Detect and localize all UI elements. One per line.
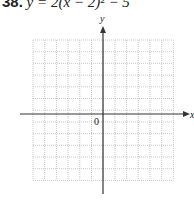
x-axis-arrow-icon	[183, 111, 190, 117]
x-axis-label: x	[189, 109, 194, 120]
origin-label: 0	[94, 116, 99, 127]
y-axis-arrow-icon	[100, 26, 106, 33]
y-axis-label: y	[99, 13, 105, 24]
coordinate-grid: x y 0	[0, 0, 194, 202]
